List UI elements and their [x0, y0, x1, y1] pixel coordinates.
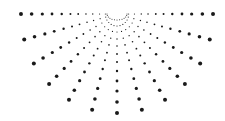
dot: [90, 108, 94, 112]
dot: [100, 18, 101, 19]
dot: [115, 100, 119, 104]
dot: [136, 48, 138, 50]
dot: [107, 15, 108, 16]
dot: [78, 79, 81, 82]
dot: [106, 19, 107, 20]
dot: [130, 68, 132, 70]
dot: [133, 18, 134, 19]
dot: [62, 28, 64, 30]
dot: [116, 70, 118, 72]
dot: [178, 30, 181, 33]
dot: [105, 13, 106, 14]
dot: [125, 22, 126, 23]
dot: [128, 13, 129, 14]
dot: [41, 56, 45, 60]
dot: [108, 29, 109, 30]
dot: [85, 13, 87, 15]
dot: [114, 19, 115, 20]
dot: [93, 97, 97, 101]
dot: [125, 29, 126, 30]
dot: [124, 44, 126, 46]
dot: [67, 98, 71, 102]
dot: [99, 13, 100, 14]
dot: [116, 38, 117, 39]
dot: [162, 60, 165, 63]
dot: [77, 13, 79, 15]
dot: [79, 23, 81, 25]
dot: [93, 20, 94, 21]
dot: [126, 15, 127, 16]
dot: [129, 26, 130, 27]
dot: [70, 60, 73, 63]
dot: [104, 35, 105, 36]
dot: [101, 68, 103, 70]
dot: [211, 12, 215, 16]
dot: [132, 41, 134, 43]
dot: [133, 31, 134, 32]
dot: [69, 13, 71, 15]
dot: [113, 25, 114, 26]
dot: [153, 79, 156, 82]
dot: [89, 29, 91, 31]
dot: [141, 13, 142, 14]
dot: [115, 111, 119, 115]
dot: [76, 37, 78, 39]
dot: [105, 17, 106, 18]
dot: [143, 29, 145, 31]
dot: [163, 98, 167, 102]
dot: [96, 87, 99, 90]
dot: [135, 87, 138, 90]
dot: [149, 47, 151, 49]
dot: [119, 19, 120, 20]
dot: [92, 13, 93, 14]
dot: [110, 37, 111, 38]
dot: [116, 61, 118, 63]
dot: [137, 97, 141, 101]
dot: [112, 31, 113, 32]
dot: [128, 17, 129, 18]
dot: [125, 17, 126, 18]
dot: [171, 13, 173, 15]
radial-dot-pattern: [0, 0, 225, 121]
dot: [122, 19, 123, 20]
dot: [55, 74, 59, 78]
dot: [180, 51, 183, 54]
dot: [144, 41, 146, 43]
dot: [101, 41, 103, 43]
dot: [137, 26, 138, 27]
dot: [30, 12, 34, 16]
dot: [33, 35, 37, 39]
dot: [43, 32, 46, 35]
dot: [189, 56, 193, 60]
dot: [116, 31, 117, 32]
dot: [122, 24, 123, 25]
dot: [95, 26, 96, 27]
dot: [116, 80, 119, 83]
dot: [47, 82, 51, 86]
dot: [128, 35, 129, 36]
dot: [41, 12, 44, 15]
dot: [158, 88, 162, 92]
dot: [128, 59, 130, 61]
dot: [61, 13, 63, 15]
dot: [147, 13, 149, 15]
dot: [83, 71, 86, 74]
dot: [150, 33, 152, 35]
dot: [176, 74, 180, 78]
dot: [116, 25, 117, 26]
dot: [59, 46, 62, 49]
dot: [139, 55, 141, 57]
dot: [51, 13, 54, 16]
dot: [168, 67, 171, 70]
dot: [124, 18, 125, 19]
dot: [63, 67, 66, 70]
dot: [155, 53, 157, 55]
dot: [132, 77, 135, 80]
dot: [101, 22, 102, 23]
dot: [94, 36, 96, 38]
dot: [68, 41, 70, 43]
dot: [117, 20, 118, 21]
dot: [161, 25, 163, 27]
dot: [140, 108, 144, 112]
dot: [134, 13, 135, 14]
